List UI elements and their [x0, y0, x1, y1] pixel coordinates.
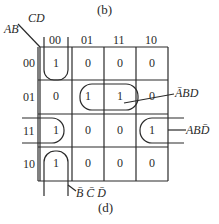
- cell-10-01: 0: [72, 147, 104, 180]
- cell-00-10: 0: [136, 47, 168, 80]
- group-label-abar-b-d: ĀBD: [175, 86, 198, 101]
- col-variable-label: CD: [28, 11, 45, 26]
- cell-11-01: 0: [72, 114, 104, 147]
- group-label-a-b-dbar: ABD̄: [186, 123, 209, 138]
- col-header-01: 01: [81, 33, 93, 48]
- row-header-00: 00: [23, 56, 35, 71]
- cell-01-10: 0: [136, 80, 168, 113]
- cell-01-01: 1: [72, 80, 104, 113]
- col-header-10: 10: [145, 33, 157, 48]
- cell-00-00: 1: [40, 47, 72, 80]
- row-header-11: 11: [23, 124, 35, 139]
- cell-11-10: 1: [136, 114, 168, 147]
- cell-11-00: 1: [40, 114, 72, 147]
- col-header-11: 11: [113, 33, 125, 48]
- cell-10-11: 0: [104, 147, 136, 180]
- group-label-bbar-cbar-dbar: B̄ C̄ D̄: [76, 186, 106, 201]
- col-header-00: 00: [49, 33, 61, 48]
- row-variable-label: AB: [4, 22, 19, 37]
- row-header-10: 10: [23, 157, 35, 172]
- cell-01-11: 1: [104, 80, 136, 113]
- row-header-01: 01: [23, 90, 35, 105]
- cell-10-00: 1: [40, 147, 72, 180]
- cell-01-00: 0: [40, 80, 72, 113]
- cell-00-01: 0: [72, 47, 104, 80]
- cell-11-11: 0: [104, 114, 136, 147]
- cell-00-11: 0: [104, 47, 136, 80]
- cell-10-10: 0: [136, 147, 168, 180]
